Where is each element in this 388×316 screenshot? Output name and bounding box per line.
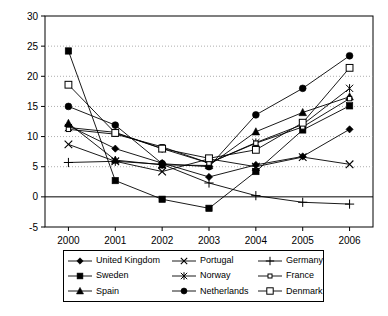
filled-circle-icon [171,285,197,297]
data-point-marker [206,155,213,162]
y-axis-tick-label: -5 [29,222,38,233]
filled-square-icon [67,270,93,282]
legend-item-label: Germany [286,256,323,265]
data-point-marker [65,103,72,110]
legend-marker [266,256,274,264]
legend-marker [267,288,273,294]
data-point-marker [159,145,166,152]
open-square-icon [257,285,283,297]
legend-item: Sweden [67,268,171,283]
open-small-square-icon [257,270,283,282]
y-axis-tick-label: 20 [27,71,39,82]
legend-item-label: France [286,271,314,280]
legend-marker [181,288,187,294]
data-point-marker [112,177,118,183]
plus-icon [257,255,283,267]
legend-marker [77,257,83,263]
legend-item: Spain [67,284,171,299]
x-axis-tick-label: 2005 [292,235,315,246]
data-point-marker [206,205,212,211]
data-point-marker [252,111,259,118]
x-cross-icon [171,255,197,267]
legend-item-label: Norway [200,271,231,280]
legend-item-label: Denmark [286,287,323,296]
x-axis-tick-label: 2003 [198,235,221,246]
legend-marker [77,273,83,279]
data-point-marker [112,130,119,137]
filled-diamond-icon [67,255,93,267]
data-point-marker [347,96,351,100]
data-point-marker [252,146,259,153]
legend-item: Denmark [257,284,328,299]
x-axis-tick-label: 2000 [57,235,80,246]
data-point-marker [66,127,70,131]
y-axis-tick-label: 15 [27,101,39,112]
x-axis-tick-label: 2004 [245,235,268,246]
legend-item: United Kingdom [67,253,171,268]
chart-legend: United KingdomPortugalGermanySwedenNorwa… [63,250,324,302]
legend-item-label: Portugal [200,256,234,265]
legend-item-label: United Kingdom [96,256,160,265]
legend-item: Norway [171,268,257,283]
legend-item: Netherlands [171,284,257,299]
data-point-marker [65,48,71,54]
x-axis-tick-label: 2001 [104,235,127,246]
y-axis-tick-label: 10 [27,131,39,142]
y-axis-tick-label: 0 [32,191,38,202]
data-point-marker [159,196,165,202]
legend-item-label: Sweden [96,271,129,280]
y-axis-tick-label: 5 [32,161,38,172]
x-axis-tick-label: 2006 [338,235,361,246]
data-point-marker [346,103,352,109]
data-point-marker [346,52,353,59]
data-point-marker [299,119,306,126]
data-point-marker [65,81,72,88]
y-axis-tick-label: 30 [27,11,39,22]
legend-item: Germany [257,253,328,268]
asterisk-icon [171,270,197,282]
data-point-marker [346,64,353,71]
legend-item: Portugal [171,253,257,268]
legend-marker [268,274,272,278]
legend-grid: United KingdomPortugalGermanySwedenNorwa… [64,251,323,301]
data-point-marker [112,122,119,129]
legend-item-label: Netherlands [200,287,249,296]
legend-item: France [257,268,328,283]
data-point-marker [254,141,258,145]
line-chart: -505101520253020002001200220032004200520… [0,0,388,316]
x-axis-tick-label: 2002 [151,235,174,246]
filled-triangle-icon [67,285,93,297]
data-point-marker [299,85,306,92]
y-axis-tick-label: 25 [27,41,39,52]
legend-item-label: Spain [96,287,119,296]
